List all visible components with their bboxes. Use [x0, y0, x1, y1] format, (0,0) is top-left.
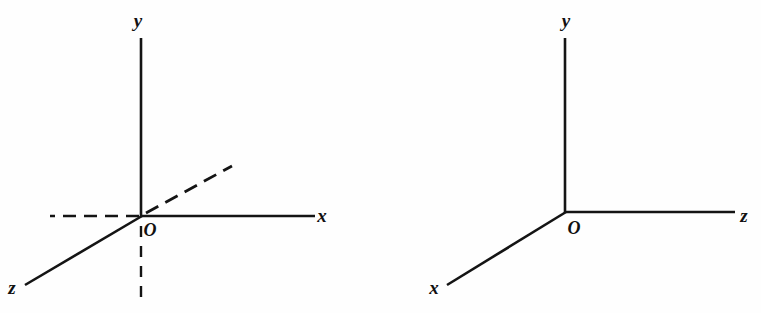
left-x-axis-label: x	[316, 205, 327, 226]
right-x-axis-label: x	[428, 277, 439, 298]
right-y-axis-label: y	[560, 10, 571, 31]
left-z-axis-label: z	[7, 277, 16, 298]
left-coordinate-system: y x z O	[7, 10, 327, 302]
right-z-axis-label: z	[739, 205, 748, 226]
right-x-axis-positive	[447, 212, 566, 285]
figure-root: y x z O y z x O	[0, 0, 761, 313]
right-coordinate-system: y z x O	[428, 10, 748, 298]
right-origin-label: O	[568, 218, 581, 238]
left-z-axis-positive	[25, 216, 142, 285]
left-y-axis-label: y	[132, 10, 143, 31]
coordinate-diagrams-svg: y x z O y z x O	[0, 0, 761, 313]
left-z-axis-negative	[146, 166, 232, 213]
left-origin-label: O	[144, 220, 157, 240]
